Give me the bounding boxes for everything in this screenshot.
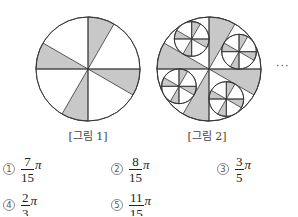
denominator: 15 [130, 206, 143, 217]
numerator: 2 [21, 191, 30, 205]
answer-choice-1[interactable]: 1715π [2, 154, 42, 184]
pi-symbol: π [245, 157, 252, 173]
answer-choice-4[interactable]: 423π [2, 190, 37, 216]
answer-choice-2[interactable]: 2815π [110, 154, 150, 184]
choice-number-badge: 1 [3, 163, 15, 175]
ellipsis: ··· [276, 60, 290, 73]
denominator: 3 [22, 206, 29, 217]
figure-1-caption: [그림 1] [68, 127, 107, 143]
answer-choice-3[interactable]: 335π [216, 154, 251, 184]
figures-canvas [0, 0, 298, 140]
fraction: 815 [129, 155, 142, 184]
fraction: 715 [21, 155, 34, 184]
fraction: 35 [235, 155, 244, 184]
figure-2-caption: [그림 2] [187, 127, 226, 143]
choice-number-badge: 3 [217, 163, 229, 175]
denominator: 15 [21, 170, 34, 184]
choice-number-badge: 2 [111, 163, 123, 175]
choice-number-badge: 4 [3, 199, 15, 211]
pi-symbol: π [143, 157, 150, 173]
fraction: 23 [21, 191, 30, 217]
pi-symbol: π [35, 157, 42, 173]
numerator: 7 [23, 155, 32, 169]
numerator: 8 [131, 155, 140, 169]
fraction: 1115 [129, 191, 144, 217]
denominator: 15 [129, 170, 142, 184]
numerator: 3 [235, 155, 244, 169]
pi-symbol: π [31, 193, 38, 209]
pi-symbol: π [145, 193, 152, 209]
numerator: 11 [129, 191, 144, 205]
denominator: 5 [236, 170, 243, 184]
choice-number-badge: 5 [111, 199, 123, 211]
answer-choice-5[interactable]: 51115π [110, 190, 151, 216]
